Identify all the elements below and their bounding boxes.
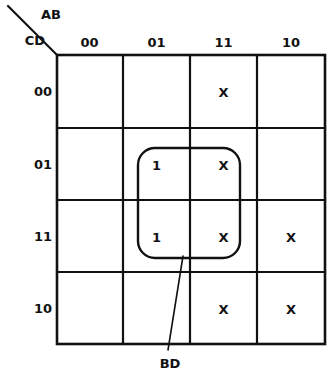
axis-label-ab: AB: [41, 7, 61, 22]
column-header-1: 01: [147, 35, 165, 50]
column-header-3: 10: [282, 35, 300, 50]
axis-label-cd: CD: [25, 33, 46, 48]
kmap-cell[interactable]: [123, 272, 190, 344]
kmap-cell[interactable]: [123, 55, 190, 128]
kmap-cell-value: X: [286, 230, 296, 245]
kmap-cell[interactable]: [57, 128, 123, 200]
kmap-cell-value: 1: [152, 230, 161, 245]
kmap-cell[interactable]: [257, 128, 325, 200]
kmap-cell-value: X: [218, 302, 228, 317]
kmap-cell-value: X: [218, 85, 228, 100]
kmap-cell[interactable]: [57, 55, 123, 128]
kmap-cell[interactable]: [57, 272, 123, 344]
kmap-cell[interactable]: [257, 55, 325, 128]
karnaugh-map-figure: CD AB 00 01 11 10 00 01 11 10 X: [0, 0, 331, 385]
kmap-cell[interactable]: [57, 200, 123, 272]
group-label-bd: BD: [160, 356, 181, 371]
column-header-2: 11: [214, 35, 232, 50]
row-header-1: 01: [34, 157, 52, 172]
column-header-0: 00: [80, 35, 98, 50]
kmap-cell-value: 1: [152, 158, 161, 173]
kmap-cell-value: X: [286, 302, 296, 317]
kmap-cell-value: X: [218, 230, 228, 245]
row-header-2: 11: [34, 229, 52, 244]
row-header-3: 10: [34, 301, 52, 316]
kmap-cell-value: X: [218, 158, 228, 173]
karnaugh-map-canvas: CD AB 00 01 11 10 00 01 11 10 X: [0, 0, 331, 385]
row-header-0: 00: [34, 84, 52, 99]
